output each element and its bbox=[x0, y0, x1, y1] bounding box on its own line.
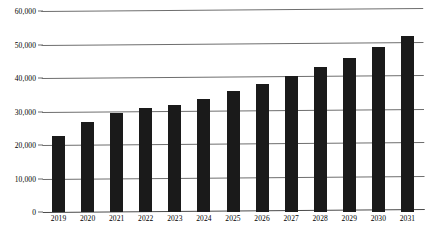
x-axis-tick-label-2023: 2023 bbox=[167, 214, 182, 223]
y-axis-tick-label: 60,000 bbox=[15, 7, 36, 16]
x-axis: 2019202020212022202320242025202620272028… bbox=[44, 214, 422, 234]
bar-2024 bbox=[197, 99, 210, 212]
y-axis-tick-label: 20,000 bbox=[15, 141, 36, 150]
bar-chart: 010,00020,00030,00040,00050,00060,000 20… bbox=[0, 0, 426, 234]
bar-2021 bbox=[110, 113, 123, 212]
y-tick-mark bbox=[38, 111, 43, 112]
bar-2027 bbox=[285, 76, 298, 212]
bars-group bbox=[44, 11, 422, 212]
y-axis-tick-label: 0 bbox=[32, 208, 36, 217]
bar-2028 bbox=[314, 67, 327, 212]
bar-2029 bbox=[343, 58, 356, 212]
y-tick-mark bbox=[38, 78, 43, 79]
x-axis-tick-label-2024: 2024 bbox=[196, 214, 211, 223]
x-axis-tick-label-2019: 2019 bbox=[51, 214, 66, 223]
plot-area bbox=[44, 11, 422, 212]
x-axis-tick-label-2025: 2025 bbox=[225, 214, 240, 223]
y-tick-mark bbox=[38, 212, 43, 213]
bar-2030 bbox=[372, 47, 385, 212]
y-tick-mark bbox=[38, 178, 43, 179]
bar-2019 bbox=[52, 136, 65, 212]
bar-2025 bbox=[227, 91, 240, 212]
y-axis-tick-label: 40,000 bbox=[15, 74, 36, 83]
x-axis-tick-label-2027: 2027 bbox=[283, 214, 298, 223]
y-axis: 010,00020,00030,00040,00050,00060,000 bbox=[0, 0, 44, 234]
y-axis-tick-label: 30,000 bbox=[15, 107, 36, 116]
y-tick-mark bbox=[38, 44, 43, 45]
x-axis-tick-label-2031: 2031 bbox=[400, 214, 415, 223]
y-axis-tick-label: 50,000 bbox=[15, 40, 36, 49]
x-axis-tick-label-2022: 2022 bbox=[138, 214, 153, 223]
bar-2026 bbox=[256, 84, 269, 212]
y-tick-mark bbox=[38, 145, 43, 146]
x-axis-tick-label-2030: 2030 bbox=[371, 214, 386, 223]
y-tick-mark bbox=[38, 11, 43, 12]
bar-2031 bbox=[401, 36, 414, 212]
bar-2020 bbox=[81, 122, 94, 212]
x-axis-tick-label-2029: 2029 bbox=[342, 214, 357, 223]
bar-2022 bbox=[139, 108, 152, 212]
x-axis-tick-label-2021: 2021 bbox=[109, 214, 124, 223]
bar-2023 bbox=[168, 105, 181, 212]
x-axis-tick-label-2020: 2020 bbox=[80, 214, 95, 223]
x-axis-tick-label-2026: 2026 bbox=[254, 214, 269, 223]
y-axis-tick-label: 10,000 bbox=[15, 174, 36, 183]
x-axis-tick-label-2028: 2028 bbox=[313, 214, 328, 223]
